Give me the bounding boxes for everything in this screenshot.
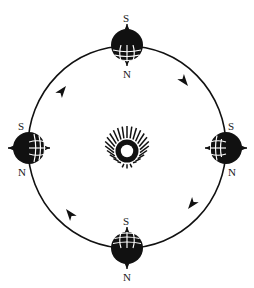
label-left-earth-north-pole: N — [18, 167, 26, 178]
label-left-earth-south-pole: S — [18, 121, 24, 132]
orbit-arrow-upper-right — [177, 74, 191, 89]
label-bottom-earth-south-pole: S — [123, 216, 129, 227]
earth-position-top — [111, 24, 143, 66]
orbit-diagram-canvas — [0, 0, 254, 288]
orbit-arrow-lower-left — [63, 206, 77, 221]
orbit-arrow-upper-left — [55, 83, 69, 98]
sun-icon — [105, 126, 149, 169]
earth-position-left — [8, 132, 50, 164]
label-right-earth-north-pole: N — [228, 167, 236, 178]
orbit-diagram: S N S N S N S N — [0, 0, 254, 288]
orbit-arrow-lower-right — [185, 197, 199, 212]
label-bottom-earth-north-pole: N — [123, 272, 131, 283]
earth-position-right — [205, 132, 247, 164]
earth-position-bottom — [111, 227, 143, 269]
label-top-earth-south-pole: S — [123, 13, 129, 24]
label-top-earth-north-pole: N — [123, 69, 131, 80]
label-right-earth-south-pole: S — [228, 121, 234, 132]
